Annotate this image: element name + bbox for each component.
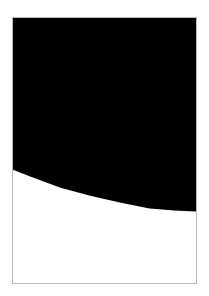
black-upper-region <box>13 18 196 212</box>
black-white-split-graphic <box>13 18 196 283</box>
picture-frame <box>12 17 197 284</box>
image-canvas <box>0 0 209 296</box>
